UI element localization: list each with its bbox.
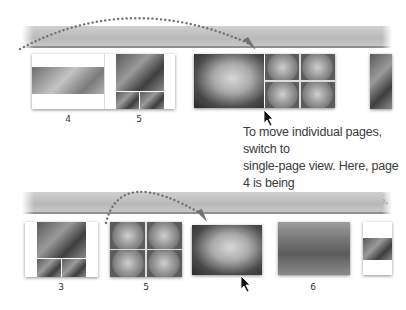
bottom-drag-arrow-icon [106,192,207,223]
drag-arrows-layer [0,0,406,310]
top-mouse-pointer-icon [264,110,273,126]
top-drag-arrow-icon [20,18,256,50]
bottom-mouse-pointer-icon [241,276,250,292]
